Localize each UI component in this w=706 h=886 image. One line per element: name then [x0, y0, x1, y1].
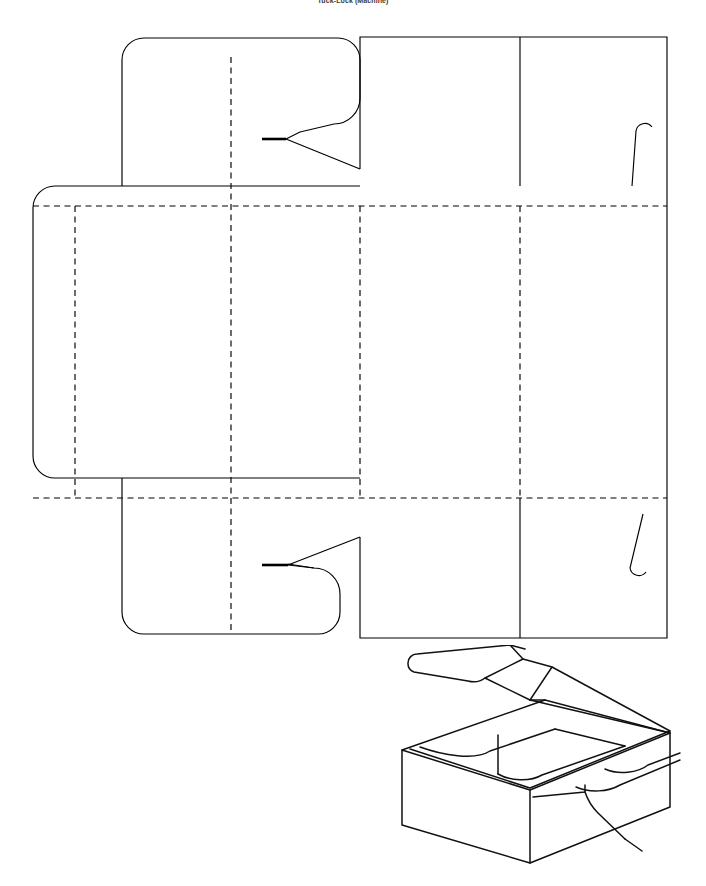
hook-tab-tail [625, 839, 642, 851]
dieline-drawing [0, 20, 706, 640]
lid-side-edge [530, 667, 552, 700]
dieline-panel-fills [33, 37, 667, 638]
panel-fill-sheet [33, 37, 667, 638]
lid-fold-front [485, 678, 530, 700]
perspective-drawing [380, 645, 690, 880]
page-canvas: Tuck-Lock (Machine) [0, 0, 706, 886]
page-title: Tuck-Lock (Machine) [0, 0, 706, 5]
lid-tuck-tab [408, 645, 523, 682]
